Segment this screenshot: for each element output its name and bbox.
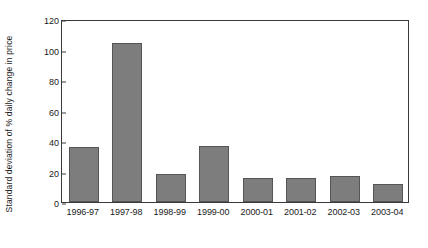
y-tick-120: 120 [44, 16, 62, 26]
y-tick-0: 0 [54, 199, 62, 209]
bar-2002-03 [330, 176, 360, 202]
y-tick-mark [62, 173, 66, 174]
y-tick-label: 60 [49, 108, 62, 118]
y-tick-mark [62, 204, 66, 205]
bar-1996-97 [69, 147, 99, 202]
bar-2001-02 [286, 178, 316, 202]
y-tick-mark [62, 51, 66, 52]
x-axis-label-2003-04: 2003-04 [371, 207, 403, 217]
x-axis-label-1998-99: 1998-99 [154, 207, 186, 217]
plot-area: 020406080100120 [61, 20, 409, 203]
y-tick-mark [62, 82, 66, 83]
y-tick-100: 100 [44, 47, 62, 57]
y-tick-label: 120 [44, 16, 62, 26]
bar-1999-00 [199, 146, 229, 202]
y-tick-label: 100 [44, 47, 62, 57]
y-axis-title: Standard deviation of % daily change in … [1, 0, 17, 248]
y-tick-label: 80 [49, 77, 62, 87]
bar-2003-04 [373, 184, 403, 202]
x-axis-label-1997-98: 1997-98 [110, 207, 142, 217]
x-axis-label-2002-03: 2002-03 [328, 207, 360, 217]
y-tick-80: 80 [49, 77, 62, 87]
bar-1997-98 [112, 43, 142, 202]
y-tick-20: 20 [49, 169, 62, 179]
y-tick-mark [62, 143, 66, 144]
y-tick-mark [62, 21, 66, 22]
y-tick-60: 60 [49, 108, 62, 118]
bar-2000-01 [243, 178, 273, 202]
y-tick-label: 0 [54, 199, 62, 209]
x-axis-label-1999-00: 1999-00 [197, 207, 229, 217]
bar-chart: Standard deviation of % daily change in … [0, 0, 428, 248]
y-tick-label: 40 [49, 138, 62, 148]
x-axis-label-2001-02: 2001-02 [284, 207, 316, 217]
bar-1998-99 [156, 174, 186, 202]
y-tick-mark [62, 112, 66, 113]
y-tick-40: 40 [49, 138, 62, 148]
y-tick-label: 20 [49, 169, 62, 179]
x-axis-label-1996-97: 1996-97 [67, 207, 99, 217]
x-axis-label-2000-01: 2000-01 [241, 207, 273, 217]
